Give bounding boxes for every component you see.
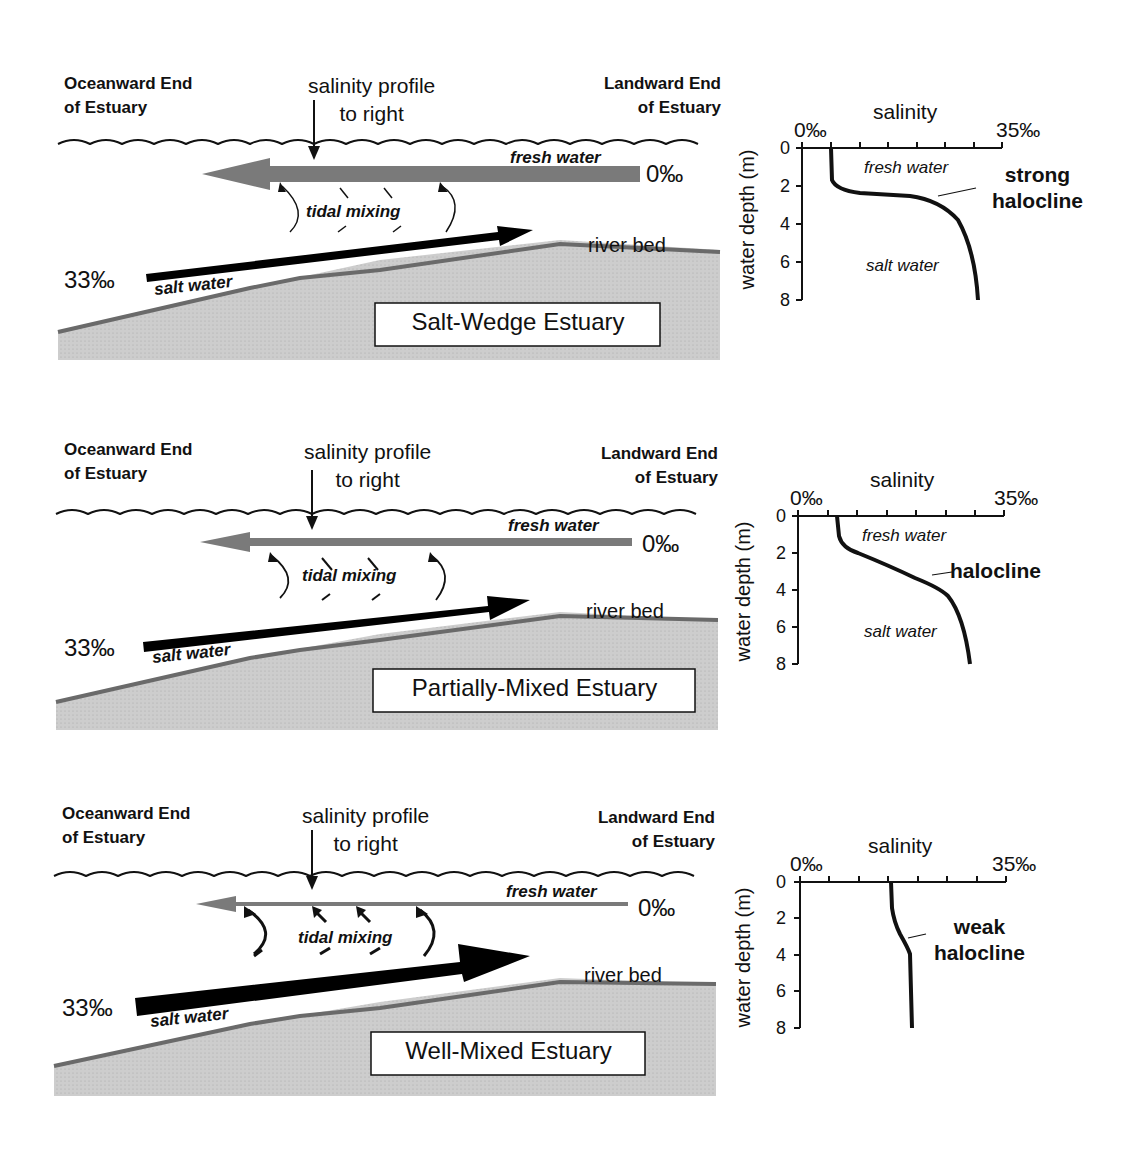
fresh-salinity-value: 0‰ bbox=[638, 894, 675, 922]
salt-salinity-value: 33‰ bbox=[64, 634, 115, 662]
profile-y-tick: 8 bbox=[776, 654, 786, 675]
estuary-type-title: Partially-Mixed Estuary bbox=[374, 674, 695, 702]
profile-pointer-label: salinity profileto right bbox=[304, 438, 431, 494]
partially-mixed-panel: Oceanward Endof Estuary salinity profile… bbox=[0, 430, 1140, 770]
landward-end-label: Landward Endof Estuary bbox=[578, 72, 721, 120]
salt-salinity-value: 33‰ bbox=[62, 994, 113, 1022]
profile-y-tick: 4 bbox=[776, 580, 786, 601]
oceanward-end-label: Oceanward Endof Estuary bbox=[62, 802, 190, 850]
fresh-salinity-value: 0‰ bbox=[646, 160, 683, 188]
profile-salt-label: salt water bbox=[866, 256, 939, 276]
profile-y-tick: 2 bbox=[780, 176, 790, 197]
profile-y-label: water depth (m) bbox=[732, 517, 755, 667]
salt-salinity-value: 33‰ bbox=[64, 266, 115, 294]
profile-y-tick: 0 bbox=[776, 506, 786, 527]
landward-end-label: Landward Endof Estuary bbox=[572, 806, 715, 854]
profile-y-tick: 0 bbox=[776, 872, 786, 893]
profile-x-min: 0‰ bbox=[790, 486, 823, 510]
profile-y-tick: 2 bbox=[776, 908, 786, 929]
profile-y-tick: 8 bbox=[776, 1018, 786, 1039]
profile-y-tick: 6 bbox=[776, 617, 786, 638]
fresh-water-label: fresh water bbox=[506, 882, 597, 902]
profile-fresh-label: fresh water bbox=[862, 526, 946, 546]
profile-x-max: 35‰ bbox=[992, 852, 1036, 876]
salt-wedge-panel: Oceanward Endof Estuary salinity profile… bbox=[0, 60, 1140, 400]
water-surface-line bbox=[58, 140, 698, 144]
profile-axis-title: salinity bbox=[870, 468, 934, 492]
profile-pointer-label: salinity profileto right bbox=[302, 802, 429, 858]
well-mixed-panel: Oceanward Endof Estuary salinity profile… bbox=[0, 796, 1140, 1136]
fresh-water-label: fresh water bbox=[510, 148, 601, 168]
profile-salt-label: salt water bbox=[864, 622, 937, 642]
oceanward-end-label: Oceanward Endof Estuary bbox=[64, 72, 192, 120]
halocline-label: halocline bbox=[950, 558, 1041, 584]
river-bed-label: river bed bbox=[584, 964, 662, 987]
profile-x-max: 35‰ bbox=[996, 118, 1040, 142]
tidal-mixing-label: tidal mixing bbox=[306, 202, 400, 222]
fresh-water-label: fresh water bbox=[508, 516, 599, 536]
profile-y-tick: 4 bbox=[780, 214, 790, 235]
profile-fresh-label: fresh water bbox=[864, 158, 948, 178]
profile-axis-title: salinity bbox=[873, 100, 937, 124]
salinity-curve bbox=[891, 882, 912, 1028]
oceanward-end-label: Oceanward Endof Estuary bbox=[64, 438, 192, 486]
estuary-type-title: Well-Mixed Estuary bbox=[372, 1037, 645, 1065]
profile-y-tick: 0 bbox=[780, 138, 790, 159]
halocline-label: stronghalocline bbox=[992, 162, 1083, 214]
profile-y-tick: 4 bbox=[776, 945, 786, 966]
profile-x-max: 35‰ bbox=[994, 486, 1038, 510]
tidal-mixing-label: tidal mixing bbox=[302, 566, 396, 586]
profile-x-min: 0‰ bbox=[794, 118, 827, 142]
profile-pointer-label: salinity profileto right bbox=[308, 72, 435, 128]
profile-y-tick: 8 bbox=[780, 290, 790, 311]
profile-axis-title: salinity bbox=[868, 834, 932, 858]
fresh-salinity-value: 0‰ bbox=[642, 530, 679, 558]
river-bed-label: river bed bbox=[588, 234, 666, 257]
landward-end-label: Landward Endof Estuary bbox=[575, 442, 718, 490]
profile-y-label: water depth (m) bbox=[732, 883, 755, 1033]
profile-y-tick: 6 bbox=[776, 981, 786, 1002]
river-bed-label: river bed bbox=[586, 600, 664, 623]
tidal-mixing-label: tidal mixing bbox=[298, 928, 392, 948]
profile-y-label: water depth (m) bbox=[736, 145, 759, 295]
profile-y-tick: 6 bbox=[780, 252, 790, 273]
halocline-label: weakhalocline bbox=[934, 914, 1025, 966]
profile-x-min: 0‰ bbox=[790, 852, 823, 876]
profile-y-tick: 2 bbox=[776, 543, 786, 564]
estuary-type-title: Salt-Wedge Estuary bbox=[376, 308, 660, 336]
